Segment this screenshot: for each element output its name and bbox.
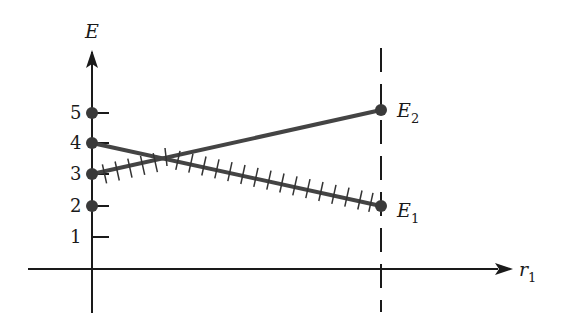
y-tick-labels: 1 2 3 4 5 xyxy=(70,102,81,247)
line-4-to-E1 xyxy=(92,143,381,206)
E1-label: E1 xyxy=(396,199,419,226)
svg-text:3: 3 xyxy=(70,163,81,184)
svg-text:5: 5 xyxy=(70,102,81,123)
svg-text:2: 2 xyxy=(70,195,81,216)
E2-point xyxy=(375,104,387,116)
svg-text:1: 1 xyxy=(70,226,81,247)
x-axis-label: r1 xyxy=(519,258,536,285)
y-axis-label: E xyxy=(84,20,99,42)
energy-level-diagram: E r1 1 2 3 4 5 xyxy=(0,0,566,320)
E1-point xyxy=(375,200,387,212)
E2-label: E2 xyxy=(396,99,419,126)
svg-text:4: 4 xyxy=(70,132,81,153)
line-3-to-E2 xyxy=(92,110,381,174)
